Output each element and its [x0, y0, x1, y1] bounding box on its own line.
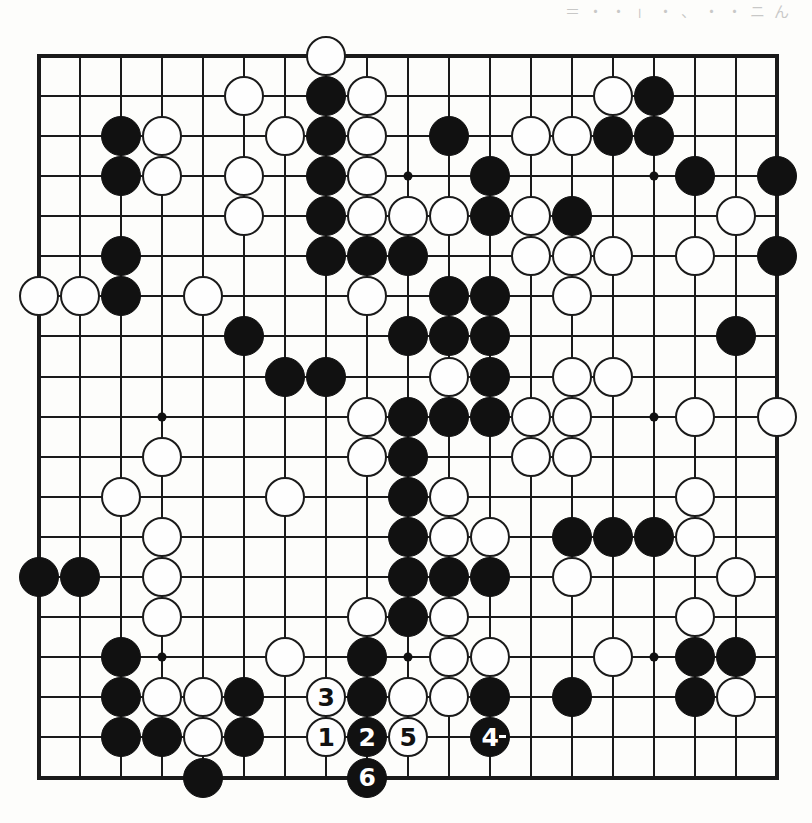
white-stone[interactable]: [265, 637, 305, 677]
white-stone[interactable]: [511, 196, 551, 236]
black-stone[interactable]: [470, 276, 510, 316]
white-stone[interactable]: [19, 276, 59, 316]
black-stone[interactable]: [634, 76, 674, 116]
white-stone[interactable]: [142, 517, 182, 557]
black-stone[interactable]: [593, 517, 633, 557]
white-stone[interactable]: [675, 517, 715, 557]
white-stone[interactable]: [142, 116, 182, 156]
black-stone[interactable]: [388, 557, 428, 597]
white-stone[interactable]: [593, 76, 633, 116]
white-stone[interactable]: [716, 196, 756, 236]
white-stone[interactable]: [388, 677, 428, 717]
white-stone[interactable]: [142, 156, 182, 196]
black-stone[interactable]: [60, 557, 100, 597]
black-stone[interactable]: [757, 236, 797, 276]
black-stone[interactable]: [675, 637, 715, 677]
numbered-move-stone-3[interactable]: 3: [306, 677, 346, 717]
black-stone[interactable]: [265, 357, 305, 397]
black-stone[interactable]: [470, 316, 510, 356]
black-stone[interactable]: [429, 116, 469, 156]
white-stone[interactable]: [552, 397, 592, 437]
white-stone[interactable]: [183, 276, 223, 316]
white-stone[interactable]: [183, 717, 223, 757]
numbered-move-stone-4[interactable]: 4: [470, 717, 510, 757]
white-stone[interactable]: [675, 236, 715, 276]
white-stone[interactable]: [224, 196, 264, 236]
white-stone[interactable]: [552, 357, 592, 397]
white-stone[interactable]: [347, 597, 387, 637]
black-stone[interactable]: [224, 717, 264, 757]
black-stone[interactable]: [224, 316, 264, 356]
white-stone[interactable]: [183, 677, 223, 717]
black-stone[interactable]: [552, 196, 592, 236]
black-stone[interactable]: [470, 397, 510, 437]
black-stone[interactable]: [429, 557, 469, 597]
white-stone[interactable]: [347, 156, 387, 196]
white-stone[interactable]: [347, 76, 387, 116]
white-stone[interactable]: [429, 477, 469, 517]
black-stone[interactable]: [306, 357, 346, 397]
white-stone[interactable]: [347, 437, 387, 477]
black-stone[interactable]: [470, 156, 510, 196]
white-stone[interactable]: [675, 597, 715, 637]
black-stone[interactable]: [224, 677, 264, 717]
black-stone[interactable]: [183, 758, 223, 798]
black-stone[interactable]: [634, 517, 674, 557]
white-stone[interactable]: [429, 196, 469, 236]
white-stone[interactable]: [552, 276, 592, 316]
black-stone[interactable]: [388, 477, 428, 517]
white-stone[interactable]: [757, 397, 797, 437]
white-stone[interactable]: [265, 116, 305, 156]
white-stone[interactable]: [552, 236, 592, 276]
black-stone[interactable]: [306, 156, 346, 196]
numbered-move-stone-2[interactable]: 2: [347, 717, 387, 757]
white-stone[interactable]: [593, 357, 633, 397]
black-stone[interactable]: [388, 316, 428, 356]
black-stone[interactable]: [347, 236, 387, 276]
go-board[interactable]: 123456: [0, 0, 812, 823]
white-stone[interactable]: [675, 477, 715, 517]
white-stone[interactable]: [388, 196, 428, 236]
black-stone[interactable]: [101, 637, 141, 677]
white-stone[interactable]: [716, 557, 756, 597]
black-stone[interactable]: [142, 717, 182, 757]
black-stone[interactable]: [101, 717, 141, 757]
white-stone[interactable]: [470, 517, 510, 557]
white-stone[interactable]: [224, 76, 264, 116]
white-stone[interactable]: [593, 236, 633, 276]
black-stone[interactable]: [306, 236, 346, 276]
black-stone[interactable]: [306, 116, 346, 156]
black-stone[interactable]: [347, 677, 387, 717]
black-stone[interactable]: [429, 316, 469, 356]
white-stone[interactable]: [142, 437, 182, 477]
black-stone[interactable]: [388, 397, 428, 437]
white-stone[interactable]: [675, 397, 715, 437]
black-stone[interactable]: [306, 76, 346, 116]
white-stone[interactable]: [429, 637, 469, 677]
white-stone[interactable]: [306, 36, 346, 76]
white-stone[interactable]: [429, 517, 469, 557]
black-stone[interactable]: [388, 236, 428, 276]
white-stone[interactable]: [429, 677, 469, 717]
black-stone[interactable]: [634, 116, 674, 156]
white-stone[interactable]: [511, 236, 551, 276]
white-stone[interactable]: [347, 116, 387, 156]
white-stone[interactable]: [511, 116, 551, 156]
white-stone[interactable]: [429, 597, 469, 637]
numbered-move-stone-5[interactable]: 5: [388, 717, 428, 757]
white-stone[interactable]: [347, 276, 387, 316]
white-stone[interactable]: [429, 357, 469, 397]
black-stone[interactable]: [470, 357, 510, 397]
white-stone[interactable]: [347, 397, 387, 437]
white-stone[interactable]: [142, 677, 182, 717]
white-stone[interactable]: [347, 196, 387, 236]
white-stone[interactable]: [101, 477, 141, 517]
black-stone[interactable]: [347, 637, 387, 677]
black-stone[interactable]: [470, 677, 510, 717]
black-stone[interactable]: [675, 677, 715, 717]
black-stone[interactable]: [101, 236, 141, 276]
black-stone[interactable]: [101, 116, 141, 156]
white-stone[interactable]: [552, 557, 592, 597]
white-stone[interactable]: [593, 637, 633, 677]
white-stone[interactable]: [470, 637, 510, 677]
